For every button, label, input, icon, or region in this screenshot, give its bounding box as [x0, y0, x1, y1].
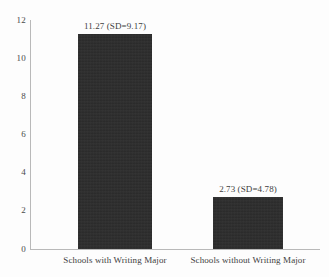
y-axis-tick-labels: 12 10 8 6 4 2 0 [0, 0, 26, 277]
y-tick-label: 10 [4, 54, 26, 63]
y-tick-label: 2 [4, 206, 26, 215]
x-axis-line [30, 249, 320, 250]
plot-area [31, 20, 320, 249]
bar-schools-without-writing-major[interactable] [213, 197, 283, 249]
bar-schools-with-writing-major[interactable] [78, 34, 152, 249]
y-tick-label: 12 [4, 16, 26, 25]
bar-chart: 12 10 8 6 4 2 0 11.27 (SD=9.17) 2.73 (SD… [0, 0, 329, 277]
bar-value-label: 2.73 (SD=4.78) [213, 185, 283, 194]
y-tick-label: 6 [4, 130, 26, 139]
bar-value-label: 11.27 (SD=9.17) [78, 22, 152, 31]
y-tick-label: 8 [4, 92, 26, 101]
y-tick-label: 0 [4, 245, 26, 254]
y-tick-label: 4 [4, 168, 26, 177]
x-category-label-1: Schools without Writing Major [168, 256, 328, 265]
